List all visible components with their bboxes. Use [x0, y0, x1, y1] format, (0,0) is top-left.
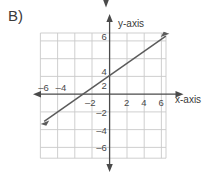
grid-lines [40, 33, 166, 158]
y-tick-neg6: –6 [96, 142, 107, 153]
x-tick-pos2: 2 [124, 97, 129, 108]
y-axis-down-arrow-icon [106, 164, 112, 172]
axis-arrowheads [33, 14, 184, 172]
x-axis-label: x-axis [175, 94, 201, 105]
y-axis-up-arrow-icon [106, 14, 112, 22]
x-tick-neg4: –4 [56, 82, 67, 93]
y-tick-pos2: 2 [102, 80, 107, 91]
y-tick-neg4: –4 [96, 125, 107, 136]
x-tick-neg6: –6 [38, 82, 49, 93]
y-tick-pos6: 6 [102, 31, 107, 42]
coordinate-plane-graph: y-axis x-axis –6 –4 –2 2 4 6 6 4 2 –2 –4… [0, 0, 208, 172]
y-tick-neg2: –2 [96, 107, 107, 118]
graph-question-panel: B) [0, 0, 208, 172]
x-tick-pos4: 4 [141, 97, 146, 108]
x-tick-pos6: 6 [158, 97, 163, 108]
y-axis-label: y-axis [118, 18, 144, 29]
x-tick-neg2: –2 [85, 97, 96, 108]
y-tick-pos4: 4 [102, 66, 107, 77]
stray-arrow-icon [103, 0, 109, 8]
